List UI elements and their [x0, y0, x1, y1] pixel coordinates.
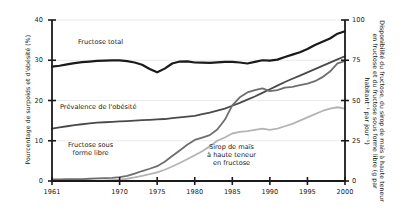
x-axis-tick-label: 1980: [180, 188, 210, 196]
x-axis-tick-label: 1990: [255, 188, 285, 196]
series-label-hfcs: Sirop de maïs à haute teneur en fructose: [207, 143, 256, 167]
y-axis-left-tick-label: 20: [23, 97, 43, 105]
x-axis-tick-label: 1995: [292, 188, 322, 196]
x-axis-tick-label: 1975: [142, 188, 172, 196]
chart-figure: Pourcentage de surpoids et d'obésité (%)…: [0, 0, 411, 216]
x-axis-tick-label: 1961: [37, 188, 67, 196]
y-axis-right-tick-label: 50: [352, 97, 372, 105]
y-axis-right-tick-label: 0: [352, 177, 372, 185]
x-axis-tick-label: 2000: [330, 188, 360, 196]
y-axis-left-tick-label: 30: [23, 56, 43, 64]
series-label-fructose-total: Fructose total: [78, 38, 123, 46]
series-label-free-fructose: Fructose sous forme libre: [68, 141, 113, 157]
y-axis-right-tick-label: 100: [352, 16, 372, 24]
x-axis-tick-label: 1985: [217, 188, 247, 196]
series-label-obesity: Prévalence de l'obésité: [60, 103, 136, 111]
x-axis-tick-label: 1970: [105, 188, 135, 196]
y-axis-right-tick-label: 75: [352, 56, 372, 64]
y-axis-left-tick-label: 40: [23, 16, 43, 24]
y-axis-left-tick-label: 10: [23, 137, 43, 145]
y-axis-left-tick-label: 0: [23, 177, 43, 185]
y-axis-right-tick-label: 25: [352, 137, 372, 145]
